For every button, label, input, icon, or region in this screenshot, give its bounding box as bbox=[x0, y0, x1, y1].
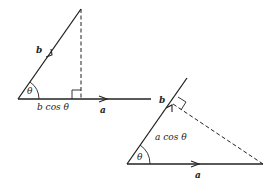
figure-2: b a cos θ θ a bbox=[127, 78, 263, 180]
angle-theta-label: θ bbox=[137, 152, 143, 162]
projection-label: a cos θ bbox=[155, 132, 187, 142]
angle-theta-label: θ bbox=[27, 86, 33, 96]
vector-b-label: b bbox=[36, 45, 42, 55]
vector-b-arrowhead-icon bbox=[46, 49, 52, 57]
right-angle-marker-icon bbox=[72, 90, 81, 99]
vector-a-label: a bbox=[100, 105, 106, 115]
vector-b-line bbox=[127, 78, 187, 164]
vector-projection-diagram: b θ b cos θ a b a cos θ θ a bbox=[0, 0, 277, 182]
projection-label: b cos θ bbox=[37, 102, 70, 112]
vector-b-label: b bbox=[159, 95, 165, 105]
figure-1: b θ b cos θ a bbox=[18, 9, 151, 115]
vector-a-label: a bbox=[195, 170, 201, 180]
